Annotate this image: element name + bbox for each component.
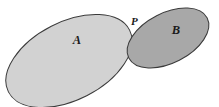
tangent-ellipses-figure: A B P	[0, 0, 219, 107]
ellipse-a-label: A	[72, 33, 81, 47]
tangency-point-label: P	[131, 15, 138, 27]
figure-canvas: A B P	[0, 0, 219, 107]
ellipse-b-label: B	[171, 23, 180, 37]
